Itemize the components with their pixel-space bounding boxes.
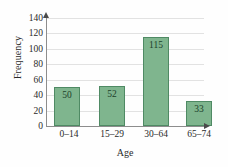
gridline [46,49,204,50]
bar-value-label: 33 [187,104,211,114]
y-tick-label: 60 [3,76,43,86]
y-axis-line [46,16,47,126]
x-tick-label: 65–74 [173,129,225,140]
bar-chart: Frequency 140 120 100 80 60 40 20 0 50 5… [0,0,228,167]
gridline [46,64,204,65]
bar-value-label: 115 [144,40,168,50]
y-tick-label: 120 [3,29,43,39]
gridline [46,80,204,81]
bar-value-label: 52 [100,89,124,99]
bar-value-label: 50 [55,90,79,100]
y-tick-label: 40 [3,91,43,101]
bar: 50 [54,87,80,126]
bar: 115 [143,37,169,126]
y-axis-tick-labels: 140 120 100 80 60 40 20 0 [0,18,43,126]
y-axis-arrow-icon [43,12,49,18]
y-tick-label: 140 [3,14,43,24]
y-tick-label: 20 [3,107,43,117]
y-tick-label: 100 [3,45,43,55]
x-axis-title: Age [46,147,204,158]
gridline [46,18,204,19]
y-tick-label: 0 [3,122,43,132]
gridline [46,33,204,34]
y-tick-label: 80 [3,60,43,70]
plot-area: 50 52 115 33 [46,18,204,126]
bar: 52 [99,86,125,126]
x-axis-line [46,126,206,127]
x-axis-tick-labels: 0–14 15–29 30–64 65–74 [46,129,204,143]
